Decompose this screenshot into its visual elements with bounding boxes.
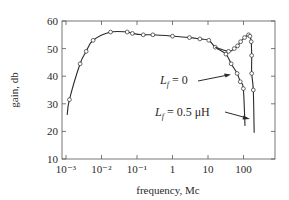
annotation-lf-0: Lf = 0 bbox=[159, 73, 231, 89]
data-point-marker bbox=[239, 40, 243, 44]
data-point-marker bbox=[241, 87, 245, 91]
data-point-marker bbox=[141, 33, 145, 37]
data-point-marker bbox=[238, 80, 242, 84]
annotation-lf-0p5-arrowhead-icon bbox=[243, 116, 251, 120]
data-point-marker bbox=[236, 44, 240, 48]
y-axis-ticks: 102030405060 bbox=[47, 15, 275, 165]
data-point-marker bbox=[232, 47, 236, 51]
data-point-marker bbox=[171, 34, 175, 38]
annotation-lf-0-arrow bbox=[198, 75, 228, 81]
y-tick-label: 20 bbox=[47, 125, 59, 137]
data-point-marker bbox=[248, 34, 252, 38]
x-axis-label: frequency, Mc bbox=[136, 184, 200, 196]
x-tick-label: 10 bbox=[203, 163, 215, 175]
data-point-marker bbox=[251, 88, 255, 92]
data-point-marker bbox=[229, 62, 233, 66]
data-point-marker bbox=[130, 32, 134, 36]
y-tick-label: 40 bbox=[47, 70, 59, 82]
data-point-marker bbox=[198, 37, 202, 41]
data-point-marker bbox=[207, 38, 211, 42]
y-tick-label: 30 bbox=[47, 98, 59, 110]
svg-text:Lf = 0.5 μH: Lf = 0.5 μH bbox=[154, 105, 210, 121]
annotation-lf-0-arrowhead-icon bbox=[224, 74, 231, 78]
y-axis-label: gain, db bbox=[8, 72, 20, 108]
data-point-marker bbox=[151, 33, 155, 37]
data-point-marker bbox=[78, 62, 82, 66]
data-point-marker bbox=[68, 98, 72, 102]
gain-vs-frequency-chart: 102030405060 10⁻³10⁻²10⁻¹110100 gain, db… bbox=[0, 0, 289, 200]
annotation-lf-0p5: Lf = 0.5 μH bbox=[154, 105, 250, 121]
x-tick-label: 10⁻¹ bbox=[127, 163, 147, 175]
data-point-marker bbox=[249, 40, 253, 44]
x-tick-label: 1 bbox=[170, 163, 176, 175]
data-point-marker bbox=[243, 36, 247, 40]
data-point-marker bbox=[84, 49, 88, 53]
data-point-marker bbox=[91, 38, 95, 42]
y-tick-label: 50 bbox=[47, 43, 59, 55]
data-point-marker bbox=[109, 30, 113, 34]
annotation-lf-0p5-value: = 0.5 μH bbox=[164, 105, 210, 119]
x-axis-ticks: 10⁻³10⁻²10⁻¹110100 bbox=[56, 21, 252, 175]
data-point-marker bbox=[188, 36, 192, 40]
data-point-marker bbox=[235, 72, 239, 76]
data-point-marker bbox=[125, 30, 129, 34]
data-point-marker bbox=[250, 54, 254, 58]
x-tick-label: 10⁻³ bbox=[56, 163, 77, 175]
y-tick-label: 60 bbox=[47, 15, 59, 27]
x-tick-label: 100 bbox=[235, 163, 252, 175]
data-point-marker bbox=[250, 72, 254, 76]
data-point-marker bbox=[227, 49, 231, 53]
annotation-lf-0-value: = 0 bbox=[169, 73, 188, 87]
svg-text:Lf = 0: Lf = 0 bbox=[159, 73, 188, 89]
x-tick-label: 10⁻² bbox=[91, 163, 112, 175]
